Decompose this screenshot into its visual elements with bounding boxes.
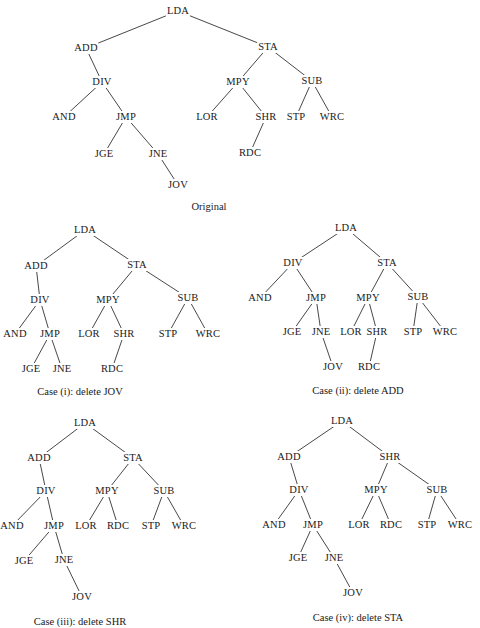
tree-node-lor: LOR [347,519,371,531]
tree-caption: Case (iii): delete SHR [34,616,126,627]
tree-node-jmp: JMP [43,520,65,532]
tree-case-iv-edges [274,421,460,593]
tree-caption: Case (ii): delete ADD [312,385,403,396]
tree-node-sub: SUB [152,485,175,497]
tree-node-and: AND [2,328,27,340]
tree-node-div: DIV [288,484,309,496]
tree-node-jge: JGE [288,552,309,564]
tree-node-stp: STP [286,111,307,123]
tree-node-add: ADD [276,451,301,463]
tree-node-rdc: RDC [379,519,403,531]
tree-node-jne: JNE [54,554,75,566]
tree-node-lda: LDA [330,415,354,427]
tree-node-wrc: WRC [447,519,474,531]
tree-caption: Original [192,201,227,212]
tree-caption: Case (iv): delete STA [313,612,403,623]
tree-node-lor: LOR [77,328,101,340]
tree-node-jge: JGE [282,326,303,338]
tree-node-div: DIV [29,294,50,306]
tree-node-sub: SUB [406,291,429,303]
tree-node-add: ADD [73,42,98,54]
edge-lda-sta [178,11,268,47]
tree-node-jge: JGE [94,148,115,160]
tree-node-shr: SHR [378,451,401,463]
tree-node-jov: JOV [342,587,364,599]
tree-node-and: AND [0,520,25,532]
tree-node-div: DIV [35,485,56,497]
tree-node-lda: LDA [73,417,97,429]
tree-node-jne: JNE [148,148,169,160]
tree-node-sta: STA [376,257,398,269]
tree-node-div: DIV [91,76,112,88]
tree-node-rdc: RDC [357,361,381,373]
tree-node-mpy: MPY [355,292,380,304]
tree-node-stp: STP [158,328,179,340]
tree-node-sta: STA [257,41,279,53]
tree-node-wrc: WRC [195,328,222,340]
tree-node-jne: JNE [52,363,73,375]
tree-node-lor: LOR [339,326,363,338]
tree-node-shr: SHR [365,326,388,338]
tree-node-jmp: JMP [305,292,327,304]
tree-node-lor: LOR [195,111,219,123]
tree-node-wrc: WRC [171,520,198,532]
tree-node-rdc: RDC [100,363,124,375]
tree-node-jne: JNE [311,326,332,338]
tree-node-wrc: WRC [432,326,459,338]
tree-node-jmp: JMP [302,519,324,531]
tree-case-iii-edges [12,423,184,597]
tree-node-shr: SHR [112,328,135,340]
tree-node-sub: SUB [176,292,199,304]
tree-caption: Case (i): delete JOV [37,386,122,397]
tree-node-lda: LDA [73,224,97,236]
tree-node-div: DIV [282,257,303,269]
tree-node-and: AND [51,111,76,123]
tree-node-and: AND [247,292,272,304]
tree-node-sta: STA [126,259,148,271]
tree-node-mpy: MPY [363,484,388,496]
tree-node-sub: SUB [300,75,323,87]
tree-node-mpy: MPY [225,76,250,88]
tree-node-sta: STA [122,452,144,464]
tree-node-mpy: MPY [94,485,119,497]
tree-node-lda: LDA [166,5,190,17]
tree-node-wrc: WRC [319,111,346,123]
tree-node-jov: JOV [71,591,93,603]
tree-node-jge: JGE [14,555,35,567]
tree-node-stp: STP [403,326,424,338]
tree-node-shr: SHR [254,111,277,123]
tree-node-and: AND [261,519,286,531]
tree-node-jge: JGE [21,363,42,375]
tree-node-jmp: JMP [115,111,137,123]
tree-edges-canvas [0,0,480,628]
tree-node-add: ADD [26,452,51,464]
tree-node-lda: LDA [334,222,358,234]
tree-node-jmp: JMP [39,328,61,340]
tree-node-mpy: MPY [95,294,120,306]
tree-node-rdc: RDC [106,520,130,532]
tree-node-stp: STP [417,519,438,531]
tree-node-rdc: RDC [238,147,262,159]
tree-node-lor: LOR [74,520,98,532]
tree-node-jne: JNE [324,552,345,564]
tree-node-sub: SUB [425,484,448,496]
tree-node-jov: JOV [322,361,344,373]
tree-node-add: ADD [23,260,48,272]
edge-lda-add [86,11,178,48]
tree-node-jov: JOV [167,179,189,191]
tree-node-stp: STP [141,520,162,532]
